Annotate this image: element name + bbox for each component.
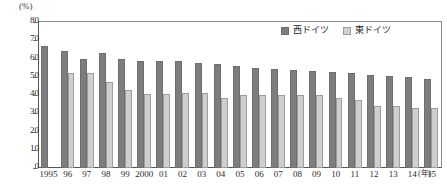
- bar-east-germany: [374, 106, 381, 168]
- bar-group: [39, 22, 58, 168]
- bar-west-germany: [80, 59, 87, 169]
- bar-group: [192, 22, 211, 168]
- bar-east-germany: [68, 73, 75, 168]
- y-axis-tick-mark: [33, 59, 37, 60]
- bar-west-germany: [195, 63, 202, 168]
- bar-west-germany: [329, 72, 336, 168]
- bar-group: [135, 22, 154, 168]
- bar-east-germany: [316, 95, 323, 168]
- bar-east-germany: [221, 98, 228, 168]
- bar-group: [116, 22, 135, 168]
- bar-east-germany: [259, 95, 266, 168]
- bar-west-germany: [405, 77, 412, 168]
- bar-east-germany: [144, 94, 151, 168]
- y-axis-tick-mark: [33, 113, 37, 114]
- y-axis-tick-label: 20: [17, 126, 39, 135]
- y-axis-tick-mark: [33, 77, 37, 78]
- bar-east-germany: [163, 94, 170, 168]
- bar-group: [326, 22, 345, 168]
- chart-legend: 西ドイツ 東ドイツ: [281, 26, 391, 35]
- bar-group: [384, 22, 403, 168]
- y-axis-tick-label: 60: [17, 53, 39, 62]
- bar-group: [250, 22, 269, 168]
- bar-east-germany: [125, 90, 132, 168]
- y-axis-tick-label: 10: [17, 144, 39, 153]
- bar-west-germany: [156, 61, 163, 168]
- y-axis-tick-label: 70: [17, 34, 39, 43]
- bar-group: [269, 22, 288, 168]
- bar-west-germany: [233, 66, 240, 168]
- legend-label-east: 東ドイツ: [355, 26, 391, 35]
- bar-chart: (%) 80706050403020100 199596979899200001…: [0, 0, 447, 190]
- bar-group: [96, 22, 115, 168]
- bar-west-germany: [348, 73, 355, 168]
- bar-east-germany: [106, 82, 113, 168]
- bar-group: [154, 22, 173, 168]
- bar-group: [58, 22, 77, 168]
- y-axis-tick-mark: [33, 150, 37, 151]
- y-axis-tick-label: 80: [17, 16, 39, 25]
- bar-west-germany: [424, 79, 431, 168]
- bar-group: [345, 22, 364, 168]
- bar-west-germany: [137, 61, 144, 168]
- y-axis-tick-mark: [33, 22, 37, 23]
- legend-label-west: 西ドイツ: [293, 26, 329, 35]
- bar-east-germany: [393, 106, 400, 168]
- bar-west-germany: [309, 71, 316, 168]
- bar-west-germany: [367, 75, 374, 168]
- bar-east-germany: [355, 100, 362, 168]
- bar-west-germany: [175, 61, 182, 168]
- y-axis-tick-label: 50: [17, 71, 39, 80]
- bar-east-germany: [240, 95, 247, 168]
- bar-east-germany: [182, 93, 189, 168]
- legend-item-east: 東ドイツ: [343, 26, 391, 35]
- bar-group: [77, 22, 96, 168]
- bar-west-germany: [61, 51, 68, 168]
- bar-west-germany: [41, 46, 48, 168]
- bar-group: [364, 22, 383, 168]
- bar-group: [173, 22, 192, 168]
- legend-item-west: 西ドイツ: [281, 26, 329, 35]
- bar-west-germany: [252, 68, 259, 168]
- bar-group: [211, 22, 230, 168]
- bar-east-germany: [412, 108, 419, 168]
- bar-west-germany: [214, 64, 221, 168]
- bar-west-germany: [271, 69, 278, 168]
- bar-group: [422, 22, 441, 168]
- y-axis-tick-mark: [33, 40, 37, 41]
- bar-west-germany: [99, 53, 106, 168]
- bar-east-germany: [297, 95, 304, 168]
- x-axis-unit-label: (年): [418, 169, 431, 179]
- x-axis: 1995969798992000010203040506070809101112…: [0, 169, 447, 183]
- bar-series-container: [39, 22, 441, 168]
- bar-west-germany: [290, 70, 297, 168]
- legend-swatch-west-icon: [281, 27, 289, 35]
- bar-west-germany: [386, 76, 393, 168]
- bar-group: [288, 22, 307, 168]
- y-axis-tick-mark: [33, 95, 37, 96]
- legend-swatch-east-icon: [343, 27, 351, 35]
- bar-east-germany: [87, 73, 94, 168]
- bar-group: [403, 22, 422, 168]
- bar-group: [307, 22, 326, 168]
- bar-east-germany: [202, 93, 209, 168]
- y-axis-tick-label: 40: [17, 89, 39, 98]
- y-axis-tick-label: 30: [17, 107, 39, 116]
- y-axis-tick-mark: [33, 132, 37, 133]
- bar-east-germany: [431, 108, 438, 168]
- bar-east-germany: [336, 98, 343, 168]
- bar-west-germany: [118, 59, 125, 169]
- bar-east-germany: [278, 95, 285, 168]
- bar-group: [230, 22, 249, 168]
